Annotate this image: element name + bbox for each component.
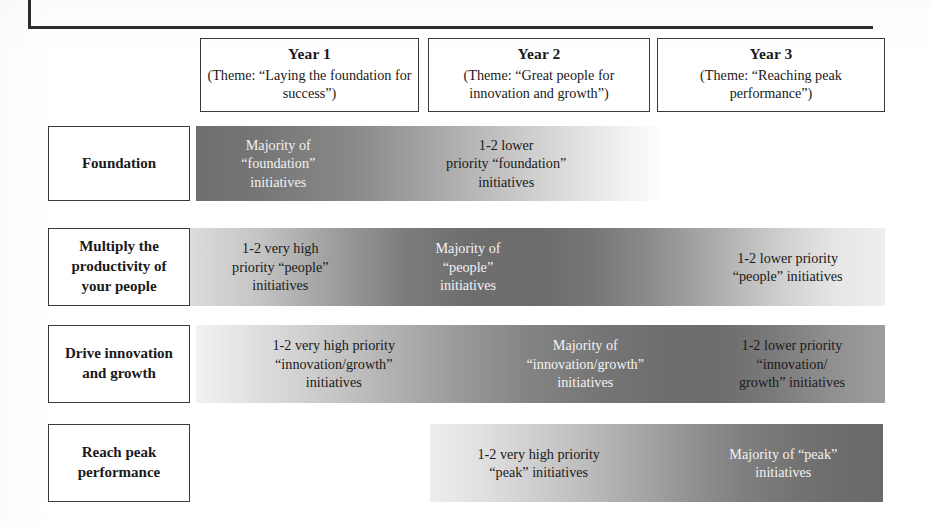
- band-cell: Majority of “people” initiatives: [385, 228, 552, 306]
- column-header-title: Year 1: [288, 45, 331, 63]
- band-cell: 1-2 very high priority “people” initiati…: [190, 228, 371, 306]
- band-cell: 1-2 very high priority “peak” initiative…: [439, 424, 638, 502]
- column-header-year-3: Year 3 (Theme: “Reaching peak performanc…: [657, 38, 885, 112]
- band-cell: 1-2 lower priority “foundation” initiati…: [403, 126, 610, 201]
- band-cell: 1-2 lower priority “innovation/ growth” …: [699, 325, 885, 403]
- gradient-band-foundation: Majority of “foundation” initiatives1-2 …: [196, 126, 666, 201]
- column-header-year-2: Year 2 (Theme: “Great people for innovat…: [428, 38, 650, 112]
- page-border-top-rule: [28, 26, 873, 29]
- band-cell: Majority of “foundation” initiatives: [196, 126, 361, 201]
- band-cell: Majority of “peak” initiatives: [693, 424, 874, 502]
- gradient-band-reach-peak-performance: 1-2 very high priority “peak” initiative…: [430, 424, 883, 502]
- column-header-title: Year 3: [750, 45, 793, 63]
- gradient-band-drive-innovation: 1-2 very high priority “innovation/growt…: [196, 325, 885, 403]
- row-label-foundation: Foundation: [48, 126, 190, 201]
- band-cell: 1-2 lower priority “people” initiatives: [690, 228, 885, 306]
- page-border-stub: [28, 0, 31, 29]
- band-cell: Majority of “innovation/growth” initiati…: [485, 325, 685, 403]
- row-label-multiply-productivity: Multiply the productivity of your people: [48, 228, 190, 306]
- column-header-theme: (Theme: “Laying the foundation for succe…: [207, 66, 412, 102]
- row-label-reach-peak-performance: Reach peak performance: [48, 424, 190, 502]
- column-header-title: Year 2: [518, 45, 561, 63]
- band-cell: 1-2 very high priority “innovation/growt…: [224, 325, 444, 403]
- column-header-theme: (Theme: “Great people for innovation and…: [435, 66, 643, 102]
- column-header-year-1: Year 1 (Theme: “Laying the foundation fo…: [200, 38, 419, 112]
- gradient-band-multiply-productivity: 1-2 very high priority “people” initiati…: [190, 228, 885, 306]
- row-label-drive-innovation: Drive innovation and growth: [48, 325, 190, 403]
- column-header-theme: (Theme: “Reaching peak performance”): [664, 66, 878, 102]
